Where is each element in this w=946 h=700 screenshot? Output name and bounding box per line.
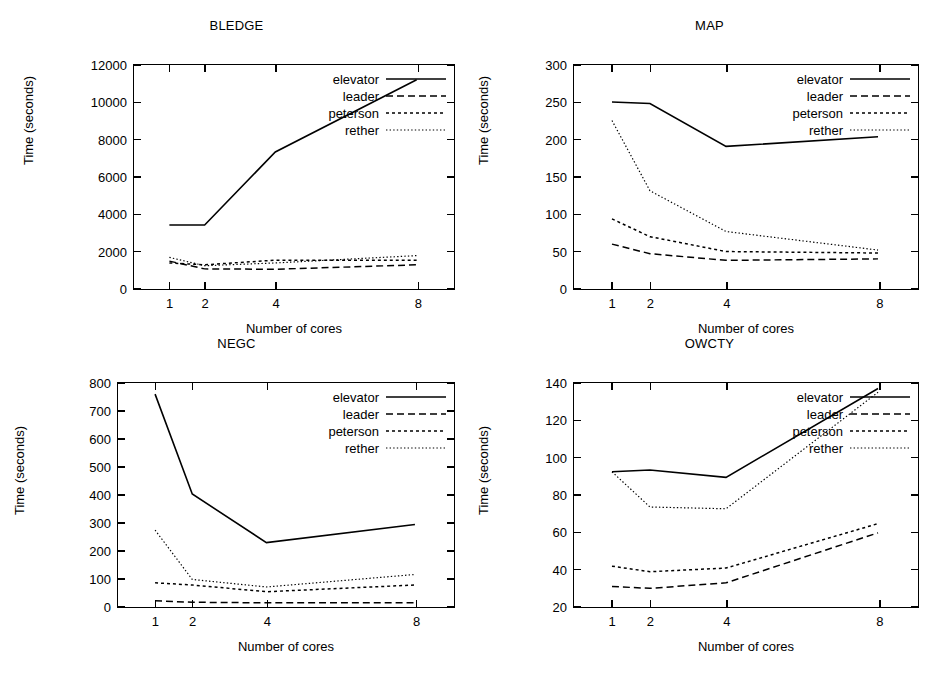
plot-area-owcty: Number of cores elevator leader peterson… [573,382,919,608]
y-tick [134,214,141,216]
x-tick [169,282,171,289]
x-tick-label: 8 [415,296,422,311]
legend-label-peterson: peterson [792,105,843,122]
series-peterson [612,524,878,572]
y-tick [911,251,918,253]
y-tick [447,494,454,496]
legend-label-elevator: elevator [797,71,843,88]
y-tick-label: 400 [89,488,111,503]
y-tick [134,102,141,104]
y-tick [134,139,141,141]
x-tick [169,65,171,72]
y-tick-label: 100 [545,450,567,465]
x-axis-title-negc: Number of cores [238,639,334,654]
y-tick [911,420,918,422]
y-tick [911,606,918,608]
x-tick [155,383,157,390]
legend-item-leader: leader [328,88,446,105]
legend-negc: elevator leader peterson rether [328,389,446,457]
legend-bledge: elevator leader peterson rether [328,71,446,139]
legend-key-rether [850,130,910,131]
legend-item-leader: leader [792,88,910,105]
x-axis-title-owcty: Number of cores [698,639,794,654]
plot-area-map: Number of cores elevator leader peterson… [573,64,919,290]
x-tick-label: 4 [723,614,730,629]
x-tick [650,383,652,390]
y-tick [574,139,581,141]
y-tick-label: 0 [120,282,127,297]
x-tick-label: 8 [413,614,420,629]
legend-item-peterson: peterson [792,423,910,440]
series-leader [155,601,415,603]
x-tick [879,600,881,607]
y-axis-title-owcty: Time (seconds) [476,426,491,515]
y-tick-label: 100 [89,572,111,587]
y-tick-label: 200 [545,132,567,147]
y-tick [134,64,141,66]
y-tick [118,606,125,608]
y-tick [447,466,454,468]
legend-key-leader [850,414,910,415]
y-tick [911,532,918,534]
legend-label-peterson: peterson [792,423,843,440]
y-tick [574,606,581,608]
x-tick-label: 2 [647,614,654,629]
legend-key-rether [850,448,910,449]
y-tick [447,410,454,412]
legend-item-elevator: elevator [792,71,910,88]
x-tick [267,383,269,390]
x-tick [879,383,881,390]
legend-label-rether: rether [809,440,843,457]
x-tick [650,65,652,72]
chart-title-map: MAP [473,18,946,33]
y-tick [118,410,125,412]
legend-item-peterson: peterson [328,105,446,122]
chart-title-owcty: OWCTY [473,336,946,351]
y-tick-label: 12000 [91,58,127,73]
legend-item-peterson: peterson [328,423,446,440]
y-tick-label: 0 [560,282,567,297]
y-tick [447,64,454,66]
x-tick [416,383,418,390]
y-tick [447,578,454,580]
y-tick-label: 150 [545,170,567,185]
panel-owcty: OWCTY Time (seconds) Number of cores ele… [473,350,946,700]
y-tick-label: 600 [89,432,111,447]
legend-item-elevator: elevator [792,389,910,406]
y-tick-label: 100 [545,207,567,222]
legend-key-peterson [850,431,910,432]
y-tick-label: 250 [545,95,567,110]
y-tick [911,214,918,216]
legend-item-elevator: elevator [328,71,446,88]
legend-label-elevator: elevator [333,71,379,88]
series-peterson [155,583,415,592]
y-tick-label: 2000 [98,244,127,259]
x-tick [192,600,194,607]
x-tick-label: 4 [273,296,280,311]
y-tick-label: 140 [545,376,567,391]
legend-key-elevator [850,79,910,80]
x-tick [416,600,418,607]
legend-label-elevator: elevator [797,389,843,406]
y-tick [911,382,918,384]
x-tick [204,282,206,289]
x-tick-label: 8 [876,614,883,629]
legend-key-leader [386,96,446,97]
y-tick-label: 6000 [98,170,127,185]
y-tick [911,457,918,459]
y-tick [574,102,581,104]
legend-label-leader: leader [807,88,843,105]
x-tick [418,65,420,72]
y-tick [447,102,454,104]
y-tick [447,176,454,178]
chart-title-negc: NEGC [0,336,473,351]
panel-bledge: BLEDGE Time (seconds) Number of cores el… [0,0,473,350]
y-tick [134,176,141,178]
y-tick-label: 500 [89,460,111,475]
x-tick [650,600,652,607]
y-tick [911,494,918,496]
series-leader [612,533,878,589]
y-tick [447,382,454,384]
legend-item-rether: rether [792,440,910,457]
y-tick [447,139,454,141]
